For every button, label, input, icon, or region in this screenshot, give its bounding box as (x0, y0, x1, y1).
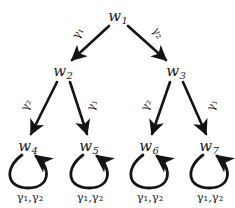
self-loops (10, 155, 228, 188)
node-w5: w5 (79, 137, 99, 156)
node-w2-subscript: 2 (66, 69, 72, 80)
edge-w2-w4 (31, 82, 57, 134)
node-w5-symbol: w (79, 137, 92, 155)
node-w6-subscript: 6 (152, 144, 158, 155)
node-w2-symbol: w (53, 62, 66, 80)
node-w4-subscript: 4 (31, 144, 37, 155)
self-loop-label-w5: γ₁,γ₂ (77, 190, 104, 204)
node-w1-symbol: w (108, 7, 121, 25)
self-loop-w5 (71, 155, 108, 188)
self-loop-w7 (191, 155, 228, 188)
self-loop-w4 (10, 155, 47, 188)
node-w4: w4 (18, 137, 38, 156)
node-w7-symbol: w (199, 137, 212, 155)
node-w7: w7 (199, 137, 219, 156)
graph-canvas (0, 0, 235, 208)
node-w4-symbol: w (18, 137, 31, 155)
node-w7-subscript: 7 (212, 144, 218, 155)
node-w3-symbol: w (166, 62, 179, 80)
node-w3-subscript: 3 (179, 69, 185, 80)
edge-w3-w7 (183, 82, 206, 134)
node-w2: w2 (53, 62, 73, 81)
node-w1-subscript: 1 (121, 14, 127, 25)
node-w3: w3 (166, 62, 186, 81)
edge-w3-w6 (152, 82, 170, 134)
node-w6: w6 (139, 137, 159, 156)
self-loop-label-w6: γ₁,γ₂ (137, 190, 164, 204)
node-w6-symbol: w (139, 137, 152, 155)
self-loop-label-w7: γ₁,γ₂ (197, 190, 224, 204)
node-w1: w1 (108, 7, 128, 26)
self-loop-label-w4: γ₁,γ₂ (17, 190, 44, 204)
self-loop-w6 (131, 155, 168, 188)
tree-diagram: w1 w2 w3 w4 w5 w6 w7 γ₁ γ₂ γ₂ γ₁ γ₂ γ₁ γ… (0, 0, 235, 208)
node-w5-subscript: 5 (92, 144, 98, 155)
